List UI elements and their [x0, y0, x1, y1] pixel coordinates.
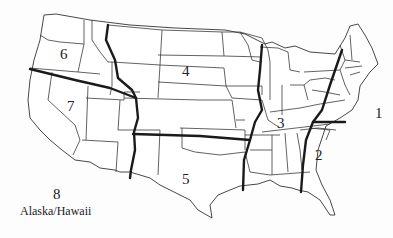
region-label-2: 2	[315, 147, 323, 163]
region-label-6: 6	[60, 46, 68, 62]
region-label-8: 8	[53, 186, 61, 202]
region-label-1: 1	[375, 105, 383, 121]
region-label-5: 5	[182, 171, 190, 187]
us-outline	[28, 14, 378, 218]
region-label-7: 7	[67, 98, 75, 114]
region-label-4: 4	[182, 63, 190, 79]
us-region-map: 1 2 3 4 5 6 7 8 Alaska/Hawaii	[0, 0, 393, 238]
region-label-3: 3	[277, 115, 285, 131]
map-svg: 1 2 3 4 5 6 7 8 Alaska/Hawaii	[0, 0, 393, 238]
region-sublabel-alaska-hawaii: Alaska/Hawaii	[20, 204, 92, 218]
